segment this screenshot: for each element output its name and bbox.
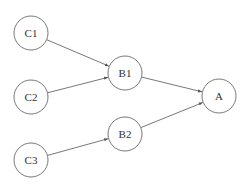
edge-b1-to-a <box>142 77 202 92</box>
node-b2: B2 <box>108 117 142 151</box>
node-b1: B1 <box>108 56 142 90</box>
edge-c1-to-b1 <box>47 40 109 66</box>
node-c1: C1 <box>14 16 48 50</box>
edge-c3-to-b2 <box>47 139 108 156</box>
node-label: A <box>215 90 223 102</box>
node-c3: C3 <box>14 143 48 177</box>
node-label: C1 <box>25 27 38 39</box>
edge-b2-to-a <box>141 103 203 128</box>
edge-c2-to-b1 <box>47 77 108 92</box>
graph-canvas: C1C2C3B1B2A <box>0 0 248 189</box>
node-c2: C2 <box>14 80 48 114</box>
node-label: B2 <box>119 128 132 140</box>
node-label: B1 <box>119 67 132 79</box>
node-label: C3 <box>25 154 38 166</box>
node-a: A <box>202 79 236 113</box>
node-label: C2 <box>25 91 38 103</box>
